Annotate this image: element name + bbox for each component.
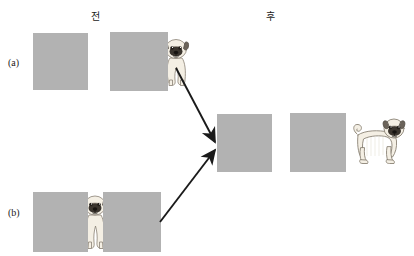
column-header-before: 전: [75, 11, 115, 23]
column-header-after: 후: [250, 11, 290, 23]
occluder-result-center: [217, 114, 272, 172]
occluder-a-left: [33, 33, 88, 90]
occluder-a-right: [110, 32, 168, 91]
figure-canvas: 전 후 (a) (b): [0, 0, 414, 256]
column-header-before-label: 전: [91, 11, 100, 22]
arrow-from-b: [160, 150, 215, 222]
row-label-b: (b): [8, 207, 20, 219]
occluder-b-left: [33, 192, 88, 252]
pug-side-full-icon: [348, 112, 406, 172]
row-label-a: (a): [8, 57, 19, 69]
row-label-b-text: (b): [8, 207, 20, 218]
occluder-result-right: [290, 113, 346, 172]
row-label-a-text: (a): [8, 57, 19, 68]
occluder-b-right: [103, 192, 161, 252]
column-header-after-label: 후: [266, 11, 275, 22]
